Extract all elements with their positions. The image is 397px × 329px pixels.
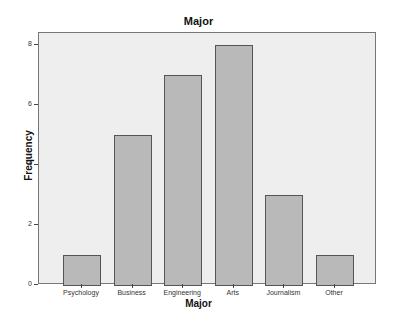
x-tick [132, 284, 133, 288]
bar-psychology [63, 255, 101, 286]
plot-area [38, 32, 376, 284]
y-tick [34, 224, 38, 225]
y-axis-title: Frequency [23, 116, 34, 196]
y-tick [34, 284, 38, 285]
x-tick [182, 284, 183, 288]
y-tick [34, 44, 38, 45]
y-tick-label: 2 [22, 220, 32, 227]
chart-title: Major [0, 15, 397, 27]
x-tick [233, 284, 234, 288]
y-tick-label: 8 [22, 40, 32, 47]
x-tick [334, 284, 335, 288]
bar-engineering [164, 75, 202, 286]
y-tick [34, 164, 38, 165]
x-tick-label: Other [304, 289, 364, 296]
x-tick [283, 284, 284, 288]
y-tick [34, 104, 38, 105]
x-tick [81, 284, 82, 288]
y-tick-label: 0 [22, 280, 32, 287]
bar-other [316, 255, 354, 286]
bar-arts [215, 45, 253, 286]
bar-journalism [265, 195, 303, 286]
bar-business [114, 135, 152, 286]
y-tick-label: 4 [22, 160, 32, 167]
x-axis-title: Major [0, 298, 397, 309]
y-tick-label: 6 [22, 100, 32, 107]
